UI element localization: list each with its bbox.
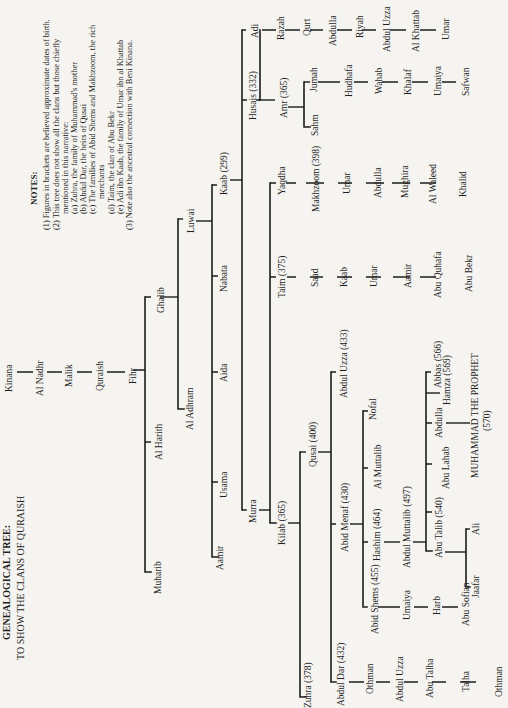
node-malik: Malik bbox=[64, 364, 74, 387]
node-al-muttalib: Al Muttalib bbox=[373, 444, 383, 489]
node-kaab: Kaab (299) bbox=[219, 152, 230, 195]
node-jaafar: Jaafar bbox=[471, 574, 481, 598]
node-zuhra: Zuhra (378) bbox=[303, 662, 314, 708]
node-abid-menaf: Abid Menaf (430) bbox=[340, 483, 351, 552]
node-al-khattab: Al Khattab bbox=[411, 10, 421, 52]
node-aida: Aida bbox=[219, 363, 229, 382]
node-murra: Murra bbox=[248, 498, 258, 523]
node-al-nadhr: Al Nadhr bbox=[35, 360, 45, 396]
node-abdul-uzza-qusai: Abdul Uzza (433) bbox=[339, 329, 350, 398]
node-al-waleed: Al Waleed bbox=[428, 164, 438, 204]
node-aamir-luwai: Aamir bbox=[215, 545, 225, 570]
node-umar-makhzoom: Umar bbox=[342, 172, 352, 194]
node-abdul-dar: Abdul Dar (432) bbox=[336, 643, 347, 706]
node-hudhafa: Hudhafa bbox=[344, 64, 354, 97]
note-2a: (a) Zuhra, the family of Muhammad's moth… bbox=[70, 62, 79, 214]
node-khalaf: Khalaf bbox=[403, 68, 413, 95]
node-hamza: Hamza (569) bbox=[442, 355, 453, 405]
node-talha: Talha bbox=[461, 670, 471, 692]
node-muhammad-birth-date: (570) bbox=[482, 410, 493, 431]
node-abu-lahab: Abu Lahab bbox=[441, 446, 451, 489]
node-abu-quhafa: Abu Quhafa bbox=[433, 251, 443, 298]
node-abu-talib: Abu Talib (540) bbox=[434, 497, 445, 558]
node-mughira: Mughira bbox=[400, 165, 410, 199]
node-wahab: Wahab bbox=[374, 68, 384, 94]
title-line-2: TO SHOW THE CLANS OF QURAISH bbox=[15, 496, 26, 660]
notes-block: NOTES: (1) Figures in brackets are belie… bbox=[29, 19, 134, 230]
node-umar-adi: Umar bbox=[441, 18, 451, 40]
node-hashim: Hashim (464) bbox=[372, 508, 383, 561]
node-kilab: Kilab (365) bbox=[277, 501, 288, 545]
node-abdulla-makhzoom: Abdulla bbox=[373, 167, 383, 198]
node-othman-dar: Othman bbox=[365, 663, 375, 694]
node-nofal: Nofal bbox=[368, 398, 378, 420]
node-al-adhram: Al Adhram bbox=[185, 387, 195, 430]
genealogical-tree-page: GENEALOGICAL TREE: TO SHOW THE CLANS OF … bbox=[0, 0, 508, 708]
node-nabata: Nabata bbox=[219, 264, 229, 292]
node-sahm: Sahm bbox=[310, 114, 320, 136]
note-2c: (c) The families of Abid Shems and Makhz… bbox=[88, 24, 97, 214]
note-2: (2) This tree does not show all the clan… bbox=[52, 38, 61, 230]
note-2b: (b) Abdul Dar, the heirs of Qusai bbox=[79, 103, 88, 214]
node-saad: Saad bbox=[310, 268, 320, 287]
node-amr: Amr (365) bbox=[279, 78, 290, 118]
node-khalid: Khalid bbox=[458, 171, 468, 197]
node-quraish: Quraish bbox=[95, 361, 105, 391]
node-husais: Husais (332) bbox=[248, 71, 259, 120]
node-adi: Adi bbox=[250, 23, 260, 38]
node-usama: Usama bbox=[219, 471, 229, 498]
node-abu-sofian: Abu Sofian bbox=[461, 582, 471, 626]
node-al-harith: Al Harith bbox=[154, 424, 164, 460]
note-1: (1) Figures in brackets are believed app… bbox=[42, 19, 51, 230]
node-yaqdha: Yaqdha bbox=[277, 166, 287, 195]
node-makhzoom: Makhzoom (398) bbox=[311, 146, 322, 212]
node-aamir-taim: Aamir bbox=[403, 263, 413, 288]
node-kaab-taim: Kaab bbox=[339, 267, 349, 287]
note-2e: (e) Adi ibn Kaab, the family of Umar ibn… bbox=[116, 40, 125, 214]
node-muharib: Muharib bbox=[153, 561, 163, 594]
note-2-cont: mentioned in this narrative: bbox=[61, 122, 70, 214]
node-razah: Razah bbox=[276, 16, 286, 40]
genealogical-tree-diagram: GENEALOGICAL TREE: TO SHOW THE CLANS OF … bbox=[0, 0, 508, 708]
node-ali: Ali bbox=[471, 523, 481, 536]
diagram-title: GENEALOGICAL TREE: TO SHOW THE CLANS OF … bbox=[1, 496, 26, 660]
note-2c-cont: merchants bbox=[97, 165, 106, 199]
node-luwai: Luwai bbox=[186, 208, 196, 233]
node-abdulla-adi: Abdulla bbox=[328, 15, 338, 46]
note-3: (3) Note also the ancestral connection w… bbox=[125, 40, 134, 230]
node-ghalib: Ghalib bbox=[156, 287, 166, 313]
node-kinana: Kinana bbox=[4, 364, 14, 392]
node-abid-shems: Abid Shems (455) bbox=[370, 564, 381, 634]
node-abu-talha: Abu Talha bbox=[425, 658, 435, 698]
node-abu-bekr: Abu Bekr bbox=[464, 254, 474, 292]
note-2d: (d) Taim, the clan of Abu Bekr bbox=[107, 111, 116, 214]
node-umaiya-jumah: Umaiya bbox=[433, 65, 443, 96]
node-fihr: Fihr bbox=[128, 367, 138, 384]
node-harb: Harb bbox=[432, 596, 442, 615]
node-abdulla-prophet-father: Abdulla bbox=[434, 407, 444, 438]
node-othman-dar-2: Othman bbox=[494, 666, 504, 697]
notes-heading: NOTES: bbox=[29, 171, 39, 205]
node-abdul-muttalib: Abdul Muttalib (497) bbox=[402, 486, 413, 568]
node-umaiya-shems: Umaiya bbox=[402, 589, 412, 620]
node-taim: Taim (375) bbox=[277, 256, 288, 298]
node-muhammad-the-prophet: MUHAMMAD THE PROPHET bbox=[470, 353, 480, 478]
node-umar-taim: Umar bbox=[369, 265, 379, 287]
node-riyah: Riyah bbox=[355, 15, 365, 38]
title-line-1: GENEALOGICAL TREE: bbox=[1, 525, 12, 640]
node-qurt: Qurt bbox=[302, 18, 312, 36]
node-abdul-uzza-dar: Abdul Uzza bbox=[395, 656, 405, 702]
node-qusai: Qusai (400) bbox=[308, 422, 319, 467]
node-safwan: Safwan bbox=[461, 67, 471, 96]
node-abdul-uzza-adi: Abdul Uzza bbox=[382, 6, 392, 52]
node-jumah: Jumah bbox=[309, 67, 319, 92]
